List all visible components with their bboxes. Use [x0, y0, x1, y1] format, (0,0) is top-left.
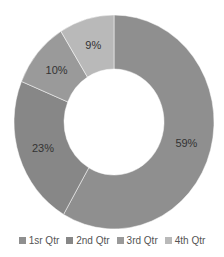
doughnut-chart: 59%23%10%9%	[0, 0, 224, 257]
legend-label-q1: 1sr Qtr	[29, 235, 60, 246]
data-label: 9%	[85, 39, 101, 51]
legend-item-q4: 4th Qtr	[165, 235, 206, 246]
chart-legend: 1sr Qtr 2nd Qtr 3rd Qtr 4th Qtr	[0, 233, 224, 247]
legend-item-q1: 1sr Qtr	[19, 235, 60, 246]
legend-swatch-q4	[165, 237, 172, 244]
legend-label-q3: 3rd Qtr	[127, 235, 158, 246]
legend-item-q2: 2nd Qtr	[66, 235, 109, 246]
legend-label-q2: 2nd Qtr	[76, 235, 109, 246]
legend-label-q4: 4th Qtr	[175, 235, 206, 246]
chart-slices	[14, 15, 214, 229]
legend-swatch-q1	[19, 237, 26, 244]
data-label: 59%	[175, 137, 197, 149]
data-label: 23%	[32, 142, 54, 154]
data-label: 10%	[46, 64, 68, 76]
legend-swatch-q3	[117, 237, 124, 244]
legend-item-q3: 3rd Qtr	[117, 235, 158, 246]
legend-swatch-q2	[66, 237, 73, 244]
